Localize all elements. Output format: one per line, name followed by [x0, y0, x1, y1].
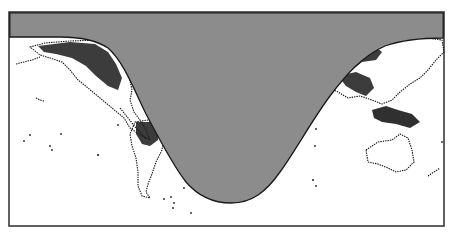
world-map	[0, 0, 455, 239]
